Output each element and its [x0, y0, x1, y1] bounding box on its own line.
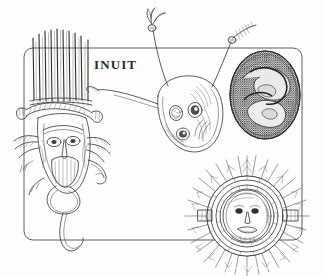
culture-label: INUIT — [94, 58, 137, 71]
illustration-artwork: .ink { fill:none; stroke:#3f3f3f; stroke… — [0, 0, 325, 276]
illustration-plate: .ink { fill:none; stroke:#3f3f3f; stroke… — [0, 0, 325, 276]
figure-coiled-oval-mask — [230, 51, 300, 140]
